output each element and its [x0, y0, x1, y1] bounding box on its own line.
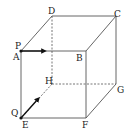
edge-BC — [86, 16, 116, 51]
arrow-Q — [21, 99, 38, 118]
label-F: F — [82, 120, 88, 130]
label-B: B — [76, 53, 83, 63]
label-A: A — [12, 52, 20, 62]
label-H: H — [45, 76, 53, 86]
label-C: C — [114, 9, 121, 19]
edge-AD — [21, 16, 52, 51]
label-D: D — [48, 6, 55, 16]
cube-diagram: D C P A B H G Q E F — [0, 0, 134, 135]
label-E: E — [22, 120, 29, 130]
edge-FG — [86, 84, 116, 118]
label-P: P — [15, 41, 21, 51]
label-G: G — [117, 85, 124, 95]
label-Q: Q — [11, 108, 18, 118]
